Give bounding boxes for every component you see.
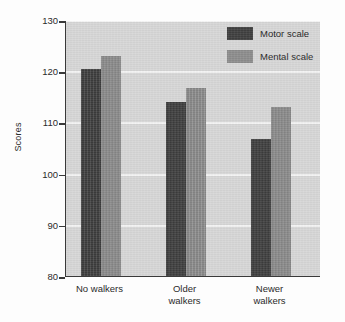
y-axis-tick-label: 120	[18, 67, 58, 77]
legend-label: Mental scale	[260, 51, 313, 62]
y-axis-title: Scores	[13, 97, 23, 177]
y-axis-tick-label: 90	[18, 221, 58, 231]
bar-motor-scale-newer-walkers	[251, 139, 271, 276]
y-axis-tick-label: 80	[18, 272, 58, 282]
y-axis-tick-mark	[59, 277, 65, 279]
bar-mental-scale-older-walkers	[186, 88, 206, 276]
legend-swatch	[227, 27, 253, 40]
y-axis-tick-label: 110	[18, 118, 58, 128]
bar-chart-figure: Scores 8090100110120130 No walkersOlderw…	[0, 0, 345, 322]
x-axis-label-line: walkers	[215, 295, 325, 307]
y-axis-tick-label: 100	[18, 170, 58, 180]
x-axis-label-newer-walkers: Newerwalkers	[215, 283, 325, 306]
bar-mental-scale-no-walkers	[101, 56, 121, 276]
legend-item-motor-scale: Motor scale	[227, 27, 313, 40]
legend-label: Motor scale	[260, 28, 309, 39]
bar-motor-scale-no-walkers	[81, 69, 101, 276]
chart-legend: Motor scaleMental scale	[227, 27, 313, 73]
bar-motor-scale-older-walkers	[166, 102, 186, 276]
bar-mental-scale-newer-walkers	[271, 107, 291, 276]
x-axis-label-line: Newer	[215, 283, 325, 295]
legend-item-mental-scale: Mental scale	[227, 50, 313, 63]
y-axis-tick-label: 130	[18, 16, 58, 26]
gridline	[66, 21, 320, 22]
legend-swatch	[227, 50, 253, 63]
